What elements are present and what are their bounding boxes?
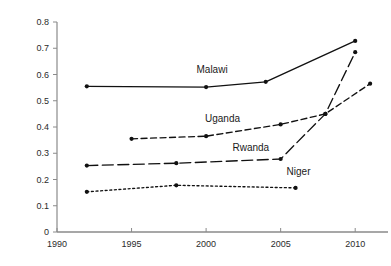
x-axis-tick-labels: 19901995200020052010 — [47, 239, 365, 249]
series-label-malawi: Malawi — [196, 64, 227, 75]
data-point-uganda — [204, 134, 208, 138]
x-tick-label: 2005 — [271, 239, 291, 249]
data-point-niger — [174, 183, 178, 187]
data-point-niger — [85, 190, 89, 194]
data-point-rwanda — [85, 163, 89, 167]
x-tick-label: 2010 — [345, 239, 365, 249]
data-point-niger — [293, 186, 297, 190]
y-axis-tick-labels: 00.10.20.30.40.50.60.70.8 — [36, 17, 49, 237]
data-point-uganda — [279, 122, 283, 126]
data-point-malawi — [264, 80, 268, 84]
y-tick-label: 0.6 — [36, 70, 49, 80]
y-tick-label: 0.4 — [36, 122, 49, 132]
x-tick-label: 1990 — [47, 239, 67, 249]
series-label-rwanda: Rwanda — [232, 142, 269, 153]
series-labels-group: MalawiUgandaRwandaNiger — [196, 64, 311, 177]
series-label-uganda: Uganda — [205, 113, 240, 124]
y-tick-label: 0 — [44, 227, 49, 237]
y-tick-label: 0.1 — [36, 201, 49, 211]
series-label-niger: Niger — [287, 166, 312, 177]
chart-plot-area: 00.10.20.30.40.50.60.70.8 19901995200020… — [0, 0, 391, 266]
x-tick-label: 1995 — [122, 239, 142, 249]
data-point-uganda — [129, 137, 133, 141]
y-tick-label: 0.3 — [36, 148, 49, 158]
data-point-rwanda — [279, 157, 283, 161]
data-point-uganda — [368, 82, 372, 86]
y-tick-label: 0.2 — [36, 175, 49, 185]
series-line-niger — [87, 185, 296, 192]
series-line-uganda — [132, 84, 371, 139]
data-point-rwanda — [323, 112, 327, 116]
y-tick-label: 0.7 — [36, 43, 49, 53]
data-point-malawi — [353, 39, 357, 43]
x-tick-label: 2000 — [196, 239, 216, 249]
data-point-rwanda — [174, 161, 178, 165]
line-chart: 00.10.20.30.40.50.60.70.8 19901995200020… — [0, 0, 391, 266]
data-point-rwanda — [353, 50, 357, 54]
y-tick-label: 0.8 — [36, 17, 49, 27]
data-point-malawi — [85, 84, 89, 88]
data-point-malawi — [204, 85, 208, 89]
y-tick-label: 0.5 — [36, 96, 49, 106]
